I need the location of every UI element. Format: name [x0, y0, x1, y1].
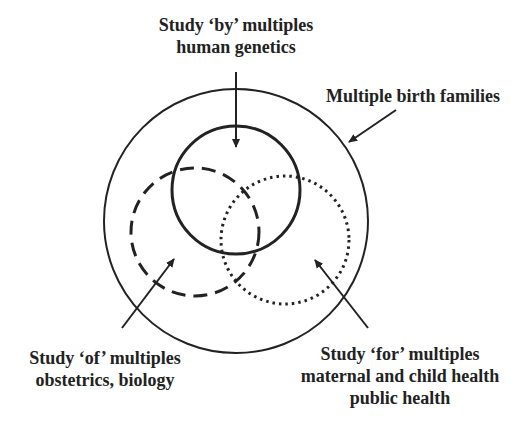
- arrow-for: [315, 260, 368, 328]
- arrow-of: [122, 259, 174, 328]
- circle-study-for-multiples: [221, 176, 349, 304]
- label-multiple-birth-families: Multiple birth families: [308, 85, 518, 107]
- label-of-sub: obstetrics, biology: [10, 369, 200, 391]
- label-study-by-multiples: Study ‘by’ multiples human genetics: [136, 14, 336, 58]
- circle-study-of-multiples: [131, 168, 259, 296]
- label-for-sub2: public health: [280, 387, 520, 409]
- label-study-for-multiples: Study ‘for’ multiples maternal and child…: [280, 343, 520, 409]
- label-study-of-multiples: Study ‘of’ multiples obstetrics, biology: [10, 347, 200, 391]
- label-by-title: Study ‘by’ multiples: [136, 14, 336, 36]
- arrow-families: [349, 110, 396, 142]
- label-of-title: Study ‘of’ multiples: [10, 347, 200, 369]
- label-by-sub: human genetics: [136, 36, 336, 58]
- label-for-title: Study ‘for’ multiples: [280, 343, 520, 365]
- label-for-sub1: maternal and child health: [280, 365, 520, 387]
- label-families-title: Multiple birth families: [308, 85, 518, 107]
